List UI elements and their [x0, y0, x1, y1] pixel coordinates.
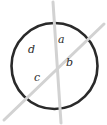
- region-label-a: a: [58, 34, 65, 45]
- circle-chords-diagram: [0, 0, 107, 125]
- region-label-c: c: [34, 72, 40, 83]
- region-label-d: d: [28, 44, 35, 55]
- chord-vertical-line: [53, 2, 61, 123]
- region-label-b: b: [66, 57, 73, 68]
- figure-canvas: a b c d: [0, 0, 107, 125]
